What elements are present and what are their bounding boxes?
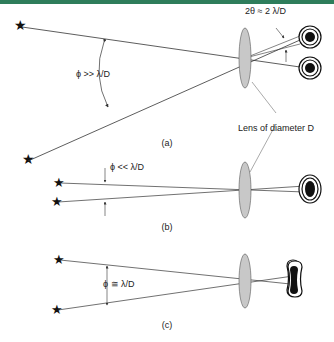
ray — [60, 183, 305, 192]
panel-a: ★ ★ ϕ >> λ/D 2θ ≈ 2 λ/D — [14, 6, 322, 167]
caption-c: (c) — [162, 320, 173, 330]
airy-pattern-icon — [299, 175, 321, 203]
caption-a: (a) — [162, 138, 173, 148]
ray — [58, 275, 300, 310]
pointer-arrow — [276, 28, 284, 38]
ray — [58, 186, 305, 202]
diffraction-resolution-diagram: ★ ★ ϕ >> λ/D 2θ ≈ 2 λ/D — [0, 0, 334, 342]
angle-label: ϕ ≅ λ/D — [103, 279, 135, 289]
lens-icon — [239, 28, 251, 88]
angle-label: ϕ << λ/D — [110, 162, 145, 172]
star-icon: ★ — [14, 18, 27, 33]
leader-line — [252, 82, 276, 113]
lens-icon — [239, 254, 251, 308]
panel-c: ★ ★ ϕ ≅ λ/D (c) — [51, 252, 302, 330]
airy-pattern-icon — [299, 26, 321, 48]
panel-b: ★ ★ ϕ << λ/D (b) — [51, 162, 321, 232]
angle-label: ϕ >> λ/D — [76, 69, 111, 79]
diagram-canvas: ★ ★ ϕ >> λ/D 2θ ≈ 2 λ/D — [0, 0, 334, 342]
ray — [245, 36, 300, 58]
ray — [245, 44, 300, 58]
ray — [22, 27, 300, 67]
airy-pattern-icon — [287, 260, 302, 297]
star-icon: ★ — [53, 175, 65, 190]
ray — [60, 260, 300, 285]
caption-b: (b) — [162, 222, 173, 232]
lens-label: Lens of diameter D — [238, 123, 315, 133]
star-icon: ★ — [22, 152, 35, 167]
airy-pattern-icon — [299, 57, 321, 79]
star-icon: ★ — [53, 252, 65, 267]
lens-icon — [239, 162, 251, 218]
two-theta-label: 2θ ≈ 2 λ/D — [245, 6, 286, 16]
